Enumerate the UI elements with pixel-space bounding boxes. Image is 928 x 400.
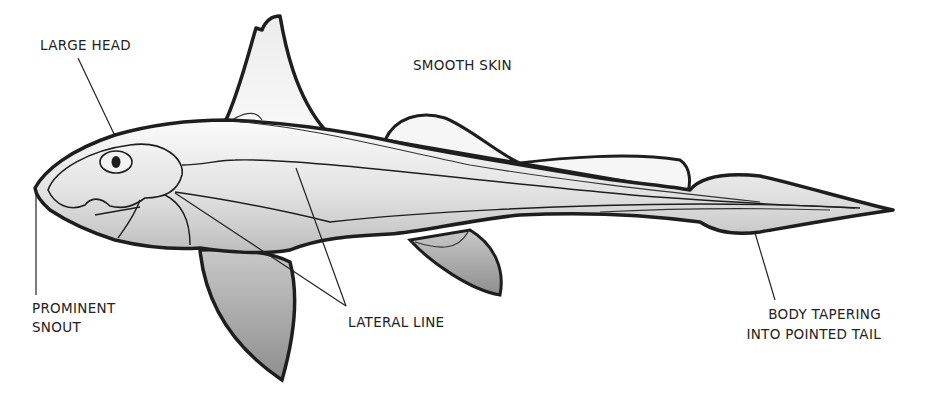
label-prominent-snout-line2: SNOUT xyxy=(32,318,81,336)
label-prominent-snout-line1: PROMINENT xyxy=(32,299,115,317)
label-smooth-skin: SMOOTH SKIN xyxy=(413,56,512,74)
label-large-head: LARGE HEAD xyxy=(40,36,131,54)
label-tail-line1: BODY TAPERING xyxy=(768,305,881,323)
pectoral-fin xyxy=(200,250,295,381)
first-dorsal-fin xyxy=(225,16,325,130)
pupil-icon xyxy=(112,156,121,168)
pelvic-fin xyxy=(410,230,501,295)
label-lateral-line: LATERAL LINE xyxy=(348,313,444,331)
leader-tail xyxy=(755,233,775,300)
leader-large-head xyxy=(78,58,115,136)
label-tail-line2: INTO POINTED TAIL xyxy=(746,325,881,343)
diagram-canvas: LARGE HEAD SMOOTH SKIN PROMINENT SNOUT L… xyxy=(0,0,928,400)
